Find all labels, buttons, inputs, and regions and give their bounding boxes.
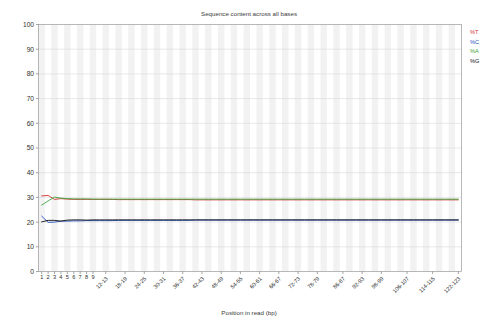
x-tick-label: 3	[53, 274, 56, 280]
x-tick-label: 8	[85, 274, 88, 280]
y-tick-label: 100	[23, 21, 34, 28]
page-title: Sequence content across all bases	[201, 10, 297, 17]
x-tick-label: 4	[59, 274, 62, 280]
y-tick-label: 70	[27, 95, 35, 102]
x-tick-label: 2	[47, 274, 50, 280]
x-tick-label: 9	[91, 274, 94, 280]
y-tick-label: 80	[27, 70, 35, 77]
y-tick-label: 20	[27, 219, 35, 226]
legend-item-pct-G: %G	[470, 58, 479, 64]
legend-item-pct-T: %T	[470, 29, 479, 35]
legend-item-pct-A: %A	[470, 48, 479, 54]
y-tick-label: 0	[30, 268, 34, 275]
legend-item-pct-C: %C	[470, 39, 479, 45]
x-tick-label: 6	[72, 274, 75, 280]
x-tick-label: 7	[79, 274, 82, 280]
x-axis-label: Position in read (bp)	[221, 309, 276, 316]
y-tick-label: 10	[27, 243, 35, 250]
y-tick-label: 40	[27, 169, 35, 176]
y-tick-label: 30	[27, 194, 35, 201]
x-tick-label: 1	[40, 274, 43, 280]
y-tick-label: 50	[27, 144, 35, 151]
chart-canvas: 0102030405060708090100 12345678912-1318-…	[0, 0, 498, 326]
y-tick-label: 90	[27, 46, 35, 53]
per-base-sequence-content-chart: 0102030405060708090100 12345678912-1318-…	[0, 0, 498, 326]
y-tick-label: 60	[27, 120, 35, 127]
x-tick-label: 5	[66, 274, 69, 280]
